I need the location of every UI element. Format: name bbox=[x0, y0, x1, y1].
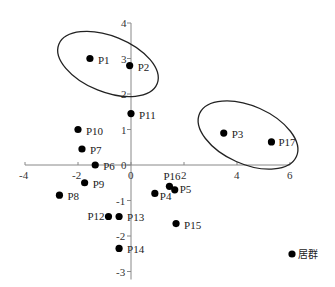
data-point bbox=[268, 138, 275, 145]
point-label: P1 bbox=[98, 54, 110, 66]
data-point bbox=[74, 126, 81, 133]
legend-label: 居群 bbox=[298, 248, 318, 260]
axes: -4-2024643210-1-2-3 bbox=[19, 17, 293, 280]
y-tick-label: -3 bbox=[116, 266, 126, 278]
x-tick-label: 6 bbox=[287, 169, 293, 181]
point-label: P8 bbox=[67, 190, 79, 202]
scatter-chart: -4-2024643210-1-2-3 P1P2P3P4P5P6P7P8P9P1… bbox=[0, 0, 335, 287]
point-label: P6 bbox=[103, 160, 115, 172]
data-point bbox=[172, 220, 179, 227]
data-point bbox=[56, 192, 63, 199]
point-label: P5 bbox=[180, 183, 192, 195]
data-point bbox=[115, 213, 122, 220]
x-tick-label: -4 bbox=[19, 169, 29, 181]
legend-marker-icon bbox=[288, 250, 295, 257]
point-label: P7 bbox=[90, 144, 102, 156]
data-point bbox=[115, 245, 122, 252]
data-point bbox=[126, 62, 133, 69]
y-tick-label: 1 bbox=[121, 124, 127, 136]
data-point bbox=[105, 213, 112, 220]
x-tick-label: 4 bbox=[234, 169, 240, 181]
point-label: P3 bbox=[232, 128, 244, 140]
data-point bbox=[151, 190, 158, 197]
point-label: P9 bbox=[93, 178, 105, 190]
point-label: P10 bbox=[86, 125, 104, 137]
y-tick-label: 3 bbox=[121, 53, 127, 65]
data-points: P1P2P3P4P5P6P7P8P9P10P11P12P13P14P15P16P… bbox=[56, 54, 296, 256]
data-point bbox=[86, 55, 93, 62]
y-tick-label: -1 bbox=[116, 195, 125, 207]
x-tick-label: -2 bbox=[72, 169, 81, 181]
x-tick-label: 0 bbox=[128, 169, 134, 181]
point-label: P12 bbox=[87, 210, 104, 222]
point-label: P14 bbox=[127, 243, 145, 255]
data-point bbox=[166, 183, 173, 190]
y-tick-label: 0 bbox=[121, 159, 127, 171]
x-tick-label: 2 bbox=[181, 169, 187, 181]
point-label: P15 bbox=[184, 219, 202, 231]
point-label: P17 bbox=[278, 136, 296, 148]
data-point bbox=[127, 110, 134, 117]
data-point bbox=[81, 179, 88, 186]
point-label: P13 bbox=[127, 211, 145, 223]
data-point bbox=[220, 129, 227, 136]
point-label: P4 bbox=[160, 190, 172, 202]
y-tick-label: -2 bbox=[116, 230, 125, 242]
y-tick-label: 2 bbox=[121, 88, 127, 100]
data-point bbox=[78, 145, 85, 152]
legend: 居群 bbox=[288, 248, 318, 260]
point-label: P16 bbox=[163, 170, 181, 182]
data-point bbox=[92, 161, 99, 168]
point-label: P11 bbox=[139, 109, 156, 121]
cluster-ellipses bbox=[48, 18, 308, 183]
y-tick-label: 4 bbox=[121, 17, 127, 29]
point-label: P2 bbox=[138, 61, 150, 73]
